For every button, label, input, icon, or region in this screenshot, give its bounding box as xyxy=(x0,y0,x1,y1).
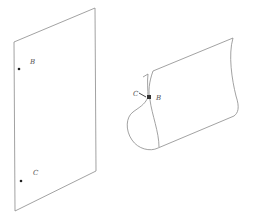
rolled-right-end xyxy=(231,38,239,116)
diagram-canvas: B C C B xyxy=(0,0,254,222)
rolled-b-label: B xyxy=(155,94,161,102)
point-b-dot xyxy=(18,68,21,71)
point-b-label: B xyxy=(29,58,35,66)
flat-sheet: B C xyxy=(14,8,96,211)
c-arrow-icon xyxy=(139,93,146,97)
point-c-dot xyxy=(20,180,23,183)
point-c-label: C xyxy=(33,169,39,177)
junction-marker xyxy=(147,95,151,99)
flat-sheet-outline xyxy=(14,8,96,211)
rolled-sheet: C B xyxy=(127,38,238,150)
rolled-seam-inner xyxy=(149,71,159,147)
rolled-left-bulge xyxy=(127,74,158,150)
rolled-top-edge xyxy=(153,38,233,71)
rolled-c-label: C xyxy=(133,90,139,98)
rolled-bottom-edge xyxy=(158,116,234,148)
